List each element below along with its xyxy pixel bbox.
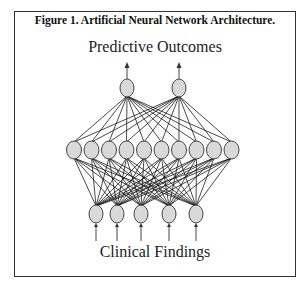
hidden-node [119,141,134,159]
connection-edge [127,96,197,142]
connection-edge [127,96,162,142]
hidden-node [224,141,239,159]
connection-edge [92,96,128,142]
connection-edge [179,158,196,206]
output-node [120,79,134,97]
connection-edge [196,158,197,206]
arrowhead-icon [94,223,98,227]
arrowhead-icon [177,62,182,68]
arrowhead-icon [167,223,171,227]
hidden-node [84,141,99,159]
hidden-node [67,141,82,159]
connection-edge [127,96,144,142]
connection-edge [109,96,127,142]
input-node [134,205,148,223]
connection-edge [179,96,214,142]
hidden-node [137,141,152,159]
arrowhead-icon [139,223,143,227]
connection-edge [127,96,214,142]
connection-edge [179,96,232,142]
connection-edge [127,96,128,142]
network-nodes [67,79,240,223]
arrowhead-icon [194,223,198,227]
hidden-node [102,141,117,159]
output-node [172,79,186,97]
connection-edge [169,158,214,206]
hidden-node [172,141,187,159]
hidden-node [189,141,204,159]
input-node [89,205,103,223]
connection-edge [179,96,197,142]
arrowhead-icon [125,62,130,68]
arrowhead-icon [115,223,119,227]
neural-network-diagram [0,0,306,289]
hidden-node [154,141,169,159]
input-node [189,205,203,223]
input-node [162,205,176,223]
hidden-node [207,141,222,159]
input-node [110,205,124,223]
